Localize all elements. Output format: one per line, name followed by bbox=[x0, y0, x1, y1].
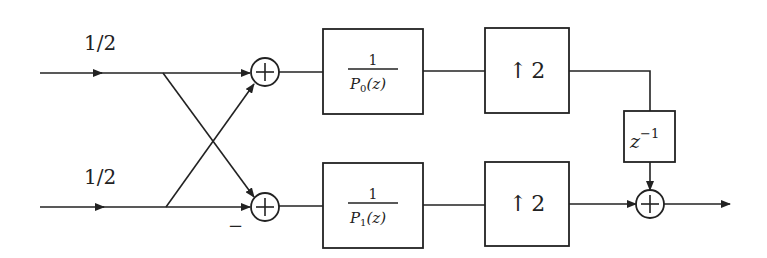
up-arrow-icon: ↑ bbox=[509, 191, 527, 216]
adder-output bbox=[636, 190, 664, 218]
filter-p1-arg: (z) bbox=[366, 209, 386, 227]
filter-p0-arg: (z) bbox=[366, 75, 386, 93]
delay-exponent: −1 bbox=[640, 126, 659, 141]
up-arrow-icon: ↑ bbox=[509, 58, 527, 83]
upsampler-bottom-factor: 2 bbox=[531, 191, 545, 216]
svg-text:P1(z): P1(z) bbox=[349, 209, 386, 228]
delay-block: z−1 bbox=[624, 111, 675, 162]
filter-p1-block: 1 P1(z) bbox=[323, 163, 423, 248]
cross-line-bottom-to-top bbox=[166, 84, 254, 207]
upsampler-top-factor: 2 bbox=[531, 58, 545, 83]
minus-sign: − bbox=[228, 215, 243, 236]
gain-label-bottom: 1/2 bbox=[84, 165, 116, 189]
gain-label-top: 1/2 bbox=[84, 31, 116, 55]
svg-text:P0(z): P0(z) bbox=[349, 75, 386, 94]
filter-p0-numerator: 1 bbox=[369, 52, 378, 68]
line-upsampler-top-to-delay bbox=[569, 71, 650, 111]
cross-line-top-to-bottom bbox=[163, 73, 254, 197]
svg-text:↑2: ↑2 bbox=[509, 191, 545, 216]
filter-p1-numerator: 1 bbox=[369, 186, 378, 202]
filter-p0-block: 1 P0(z) bbox=[323, 29, 423, 114]
upsampler-top-block: ↑2 bbox=[485, 28, 569, 113]
upsampler-bottom-block: ↑2 bbox=[485, 162, 569, 246]
adder-top bbox=[251, 58, 279, 86]
adder-bottom bbox=[251, 193, 279, 221]
svg-text:↑2: ↑2 bbox=[509, 58, 545, 83]
block-diagram: 1/2 1/2 − 1 P0(z) 1 P1(z) bbox=[0, 0, 767, 258]
